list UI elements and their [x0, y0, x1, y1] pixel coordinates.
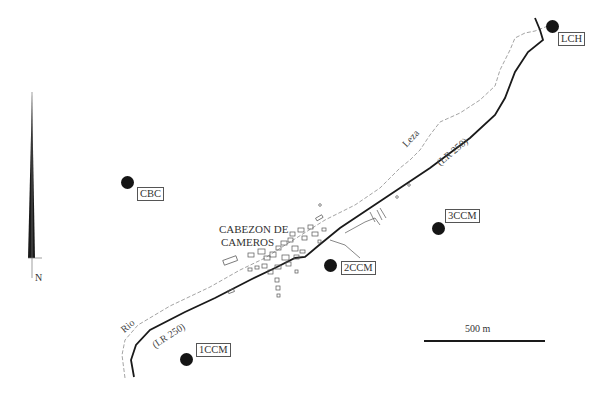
town-label-line2: CAMEROS: [219, 236, 288, 249]
scale-label: 500 m: [465, 323, 490, 335]
town-label: CABEZON DE CAMEROS: [219, 223, 288, 249]
station-label-cbc: CBC: [137, 187, 164, 201]
north-arrow-icon: [28, 92, 42, 278]
map-canvas: [0, 0, 613, 399]
station-marker-cbc[interactable]: [121, 176, 134, 189]
town-label-line1: CABEZON DE: [219, 223, 288, 236]
station-marker-1ccm[interactable]: [180, 353, 193, 366]
station-label-2ccm: 2CCM: [341, 261, 376, 275]
station-marker-2ccm[interactable]: [324, 259, 337, 272]
station-label-3ccm: 3CCM: [445, 209, 480, 223]
station-label-1ccm: 1CCM: [196, 343, 231, 357]
station-marker-3ccm[interactable]: [432, 222, 445, 235]
north-label: N: [35, 272, 42, 284]
station-label-lch: LCH: [558, 32, 585, 46]
